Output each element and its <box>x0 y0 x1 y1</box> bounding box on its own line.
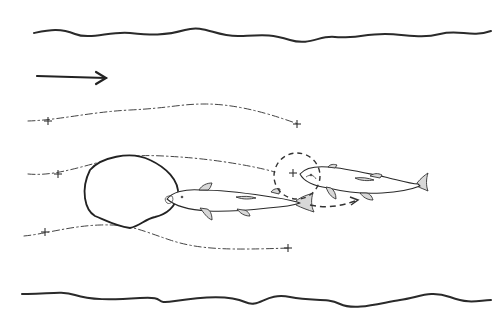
diagram-canvas <box>0 0 493 322</box>
reposition-path <box>310 201 355 207</box>
tail-fin <box>417 173 428 191</box>
streamline <box>24 225 290 249</box>
arrow-right-icon <box>37 72 106 84</box>
flow-direction-shaft <box>37 76 106 78</box>
fin <box>360 193 373 200</box>
eye <box>181 196 184 199</box>
cross-marker-icon <box>54 170 62 178</box>
channel-bank-bottom <box>22 293 491 307</box>
cross-marker-icon <box>44 117 52 125</box>
fish-flow-diagram <box>0 0 493 322</box>
streamline <box>28 104 298 124</box>
cross-marker-icon <box>289 169 297 177</box>
cross-marker-icon <box>293 120 301 128</box>
cross-marker-icon <box>41 228 49 236</box>
cross-marker-icon <box>284 244 292 252</box>
fin <box>328 164 337 168</box>
fish-body <box>167 190 300 211</box>
lead-fish <box>165 183 314 220</box>
fin <box>199 183 212 190</box>
channel-bank-top <box>34 28 491 41</box>
eye <box>310 174 313 177</box>
wake-region <box>85 155 179 228</box>
